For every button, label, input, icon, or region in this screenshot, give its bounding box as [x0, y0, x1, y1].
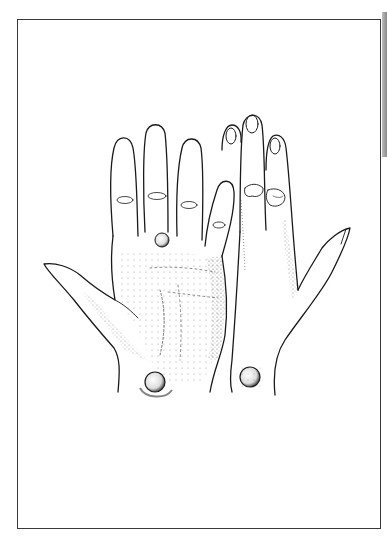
left-wrist-nodule: [145, 372, 165, 392]
hands-illustration: [0, 0, 387, 544]
palm-nodule: [155, 233, 169, 247]
